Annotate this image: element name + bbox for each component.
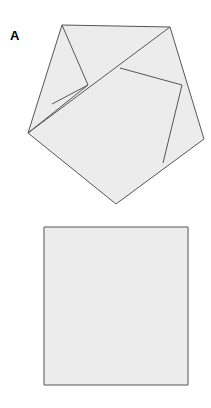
- panel-a-shape-pentagon: [0, 0, 211, 216]
- figure-root: A B: [0, 0, 211, 408]
- pentagon-outline: [28, 25, 204, 204]
- panel-b-shape-square: [0, 216, 211, 408]
- panel-b: B: [0, 216, 211, 408]
- panel-a: A: [0, 0, 211, 216]
- square-outline: [44, 227, 188, 385]
